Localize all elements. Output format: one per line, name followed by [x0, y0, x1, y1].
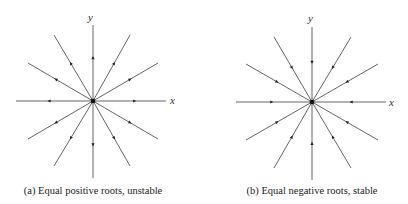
arrowhead-icon: [350, 100, 353, 103]
trajectory-line: [274, 37, 312, 102]
trajectory-line: [54, 35, 93, 101]
trajectory-line: [312, 37, 351, 102]
trajectory-line: [28, 63, 93, 101]
panel-a-x-label: x: [170, 94, 175, 106]
arrowhead-icon: [91, 143, 94, 146]
trajectory-line: [246, 64, 312, 102]
panel-a-caption: (a) Equal positive roots, unstable: [24, 185, 163, 196]
trajectory-line: [312, 102, 378, 140]
panel-b-y-label: y: [308, 12, 313, 24]
trajectory-line: [246, 102, 312, 140]
trajectory-line: [93, 101, 130, 166]
trajectory-line: [93, 101, 158, 139]
trajectory-line: [93, 63, 158, 101]
arrowhead-icon: [91, 56, 94, 59]
panel-b-caption: (b) Equal negative roots, stable: [247, 185, 378, 196]
panel-a-unstable-node: [16, 25, 166, 178]
panel-b-stable-node: [236, 27, 386, 180]
trajectory-line: [28, 101, 93, 139]
phase-portraits: [0, 0, 408, 204]
arrowhead-icon: [310, 142, 313, 145]
arrowhead-icon: [133, 99, 136, 102]
panel-a-y-label: y: [88, 11, 93, 23]
trajectory-line: [93, 35, 130, 101]
trajectory-line: [312, 64, 378, 102]
critical-point: [91, 99, 96, 104]
trajectory-line: [312, 102, 351, 168]
arrowhead-icon: [310, 61, 313, 64]
trajectory-line: [274, 102, 312, 168]
panel-b-x-label: x: [389, 96, 394, 108]
critical-point: [310, 100, 315, 105]
arrowhead-icon: [270, 100, 273, 103]
trajectory-line: [54, 101, 93, 166]
arrowhead-icon: [47, 99, 50, 102]
